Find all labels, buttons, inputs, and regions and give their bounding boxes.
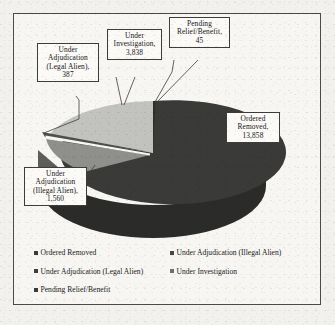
legend-label: Pending Relief/Benefit [41, 285, 111, 294]
legend-label: Under Investigation [177, 267, 238, 276]
callout-under-adjudication-illegal-alien: Under Adjudication (Illegal Alien), 1,56… [24, 167, 87, 206]
legend-row: Pending Relief/Benefit [34, 285, 306, 294]
legend-row: Ordered Removed Under Adjudication (Ille… [34, 248, 306, 257]
legend-item-pending-relief-benefit[interactable]: Pending Relief/Benefit [34, 285, 306, 294]
callout-line: 3,838 [110, 49, 159, 58]
legend-item-under-investigation[interactable]: Under Investigation [170, 267, 306, 276]
callout-line: 45 [172, 37, 227, 46]
callout-under-investigation: Under Investigation, 3,838 [107, 29, 162, 60]
legend-item-under-adjudication-illegal-alien[interactable]: Under Adjudication (Illegal Alien) [170, 248, 306, 257]
legend-item-ordered-removed[interactable]: Ordered Removed [34, 248, 170, 257]
legend-label: Under Adjudication (Illegal Alien) [177, 248, 282, 257]
leader-line-pending-relief [155, 60, 198, 102]
callout-line: 1,560 [27, 195, 84, 204]
chart-legend: Ordered Removed Under Adjudication (Ille… [34, 248, 306, 304]
leader-line-under-investigation [116, 77, 135, 105]
legend-item-under-adjudication-legal-alien[interactable]: Under Adjudication (Legal Alien) [34, 267, 170, 276]
callout-ordered-removed: Ordered Removed, 13,858 [226, 112, 280, 143]
callout-under-adjudication-legal-alien: Under Adjudication (Legal Alien), 387 [37, 43, 99, 82]
callout-line: 387 [40, 71, 96, 80]
callout-pending-relief-benefit: Pending Relief/Benefit, 45 [169, 17, 230, 48]
legend-swatch-icon [170, 251, 174, 255]
callout-line: 13,858 [229, 132, 277, 141]
legend-row: Under Adjudication (Legal Alien) Under I… [34, 267, 306, 276]
legend-swatch-icon [170, 269, 174, 273]
legend-swatch-icon [34, 251, 38, 255]
legend-label: Under Adjudication (Legal Alien) [41, 267, 144, 276]
legend-label: Ordered Removed [41, 248, 97, 257]
legend-swatch-icon [34, 269, 38, 273]
legend-swatch-icon [34, 288, 38, 292]
